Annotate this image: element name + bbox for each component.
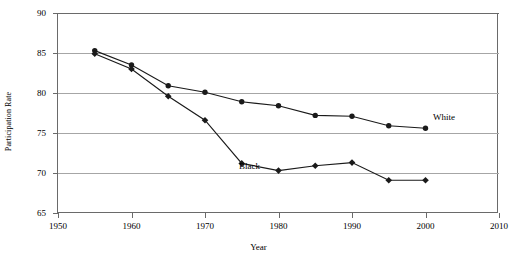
series-annotation-black: Black bbox=[239, 161, 260, 171]
data-point-white bbox=[423, 126, 428, 131]
y-tick-label-70: 70 bbox=[37, 168, 46, 178]
data-point-black bbox=[275, 167, 282, 174]
x-tick-label-2010: 2010 bbox=[490, 221, 508, 231]
x-tick-1980 bbox=[279, 213, 280, 218]
x-tick-label-1990: 1990 bbox=[343, 221, 361, 231]
x-tick-2010 bbox=[499, 213, 500, 218]
series-markers-white bbox=[92, 48, 428, 131]
y-axis-title-text: Participation Rate bbox=[5, 91, 14, 150]
x-tick-1990 bbox=[352, 213, 353, 218]
x-tick-label-1950: 1950 bbox=[49, 221, 67, 231]
data-point-black bbox=[422, 177, 429, 184]
x-tick-label-1970: 1970 bbox=[196, 221, 214, 231]
data-point-black bbox=[312, 163, 319, 170]
series-line-white bbox=[95, 51, 426, 129]
x-tick-1970 bbox=[205, 213, 206, 218]
y-tick-label-90: 90 bbox=[37, 8, 46, 18]
x-tick-1960 bbox=[132, 213, 133, 218]
x-tick-label-1960: 1960 bbox=[123, 221, 141, 231]
y-tick-label-65: 65 bbox=[37, 208, 46, 218]
clipped-caption-strip bbox=[57, 0, 497, 2]
data-point-white bbox=[202, 90, 207, 95]
plot-area: 90 85 80 75 70 65 1950 1960 1970 1980 19… bbox=[57, 13, 498, 213]
y-tick-label-80: 80 bbox=[37, 88, 46, 98]
chart-page: Participation Rate Year 90 85 80 75 70 6… bbox=[0, 0, 517, 267]
data-point-white bbox=[313, 113, 318, 118]
data-point-white bbox=[386, 123, 391, 128]
data-point-black bbox=[349, 159, 356, 166]
x-axis-title: Year bbox=[0, 242, 517, 252]
series-annotation-white: White bbox=[433, 112, 455, 122]
data-point-white bbox=[276, 103, 281, 108]
x-tick-label-2000: 2000 bbox=[417, 221, 435, 231]
data-point-white bbox=[349, 114, 354, 119]
y-tick-label-75: 75 bbox=[37, 128, 46, 138]
data-point-white bbox=[239, 99, 244, 104]
data-point-white bbox=[166, 83, 171, 88]
y-axis-title: Participation Rate bbox=[0, 56, 18, 186]
x-tick-1950 bbox=[58, 213, 59, 218]
x-tick-label-1980: 1980 bbox=[270, 221, 288, 231]
y-tick-label-85: 85 bbox=[37, 48, 46, 58]
data-point-black bbox=[385, 177, 392, 184]
x-tick-2000 bbox=[426, 213, 427, 218]
